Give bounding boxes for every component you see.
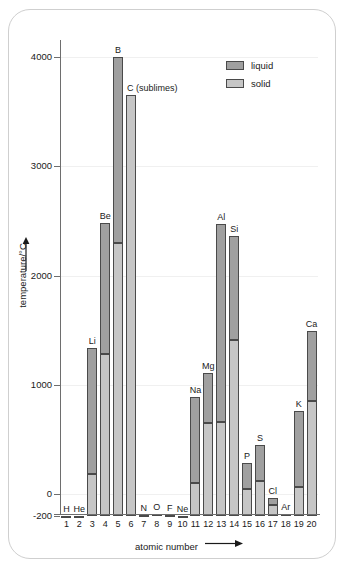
- bar-segment-solid: [100, 354, 110, 516]
- bar-n: [139, 515, 149, 516]
- legend-item-liquid: liquid: [226, 60, 321, 71]
- bar-label-s: S: [247, 433, 273, 443]
- chart-figure: -20001000200030004000H1He2Li3Be4B5C (sub…: [0, 0, 345, 568]
- gridline: [60, 276, 318, 277]
- bar-label-cl: Cl: [260, 486, 286, 496]
- bar-segment-liquid: [139, 515, 149, 517]
- bar-segment-solid: [203, 423, 213, 516]
- bar-label-ca: Ca: [299, 319, 325, 329]
- y-axis-line: [60, 40, 61, 515]
- bar-segment-liquid: [113, 57, 123, 243]
- legend-item-solid: solid: [226, 78, 321, 89]
- y-axis-tick-label: -200: [14, 510, 52, 521]
- bar-segment-liquid: [100, 223, 110, 354]
- bar-li: [87, 348, 97, 516]
- bar-segment-solid: [294, 487, 304, 516]
- bar-be: [100, 223, 110, 516]
- x-axis-title-text: atomic number: [135, 541, 198, 552]
- bar-segment-solid: [178, 516, 188, 518]
- y-axis-tick-label: 4000: [14, 51, 52, 62]
- bar-segment-liquid: [242, 463, 252, 489]
- bar-segment-solid: [113, 243, 123, 516]
- y-axis-tick-label: 3000: [14, 160, 52, 171]
- bar-segment-solid: [229, 340, 239, 516]
- y-axis-tick: [54, 516, 60, 517]
- bar-segment-solid: [61, 516, 71, 518]
- bar-c: [126, 95, 136, 516]
- bar-segment-liquid: [294, 411, 304, 487]
- bar-segment-solid: [87, 474, 97, 516]
- bar-si: [229, 236, 239, 516]
- gridline: [60, 166, 318, 167]
- bar-label-c: C (sublimes): [127, 83, 197, 93]
- bar-b: [113, 57, 123, 516]
- bar-segment-liquid: [190, 397, 200, 484]
- bar-segment-solid: [74, 516, 84, 518]
- bar-segment-liquid: [307, 331, 317, 401]
- bar-he: [74, 516, 84, 517]
- bar-segment-liquid: [216, 224, 226, 422]
- legend: liquid solid: [226, 60, 321, 96]
- bar-segment-liquid: [229, 236, 239, 340]
- bar-segment-solid: [126, 95, 136, 516]
- x-axis-tick-label: 20: [304, 519, 320, 529]
- bar-k: [294, 411, 304, 516]
- bar-ca: [307, 331, 317, 516]
- bar-segment-solid: [216, 422, 226, 516]
- legend-swatch-solid: [226, 79, 244, 88]
- bar-s: [255, 445, 265, 515]
- bar-label-si: Si: [221, 224, 247, 234]
- legend-swatch-liquid: [226, 61, 244, 70]
- x-axis-arrow-icon: [205, 539, 243, 548]
- bar-al: [216, 224, 226, 516]
- bar-h: [61, 516, 71, 517]
- bar-segment-liquid: [255, 445, 265, 481]
- bar-ne: [178, 516, 188, 517]
- y-axis-title: temperature/°C: [17, 221, 28, 331]
- bar-segment-solid: [242, 489, 252, 516]
- y-axis-tick-label: 1000: [14, 379, 52, 390]
- bar-segment-solid: [190, 483, 200, 516]
- bar-label-al: Al: [208, 212, 234, 222]
- bar-mg: [203, 373, 213, 516]
- bar-label-b: B: [105, 45, 131, 55]
- bar-p: [242, 463, 252, 515]
- bar-segment-liquid: [87, 348, 97, 475]
- legend-label-liquid: liquid: [251, 60, 273, 71]
- x-axis-line: [54, 514, 320, 515]
- bar-segment-solid: [307, 401, 317, 516]
- x-axis-title: atomic number: [60, 541, 318, 552]
- gridline: [60, 57, 318, 58]
- bar-segment-liquid: [203, 373, 213, 423]
- legend-label-solid: solid: [251, 78, 271, 89]
- bar-na: [190, 397, 200, 516]
- y-axis-tick-label: 0: [14, 488, 52, 499]
